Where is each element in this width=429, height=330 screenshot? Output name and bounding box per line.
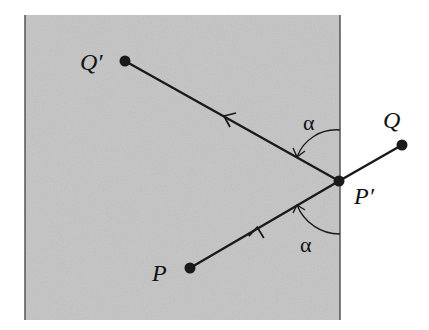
label-q-prime: Q′ <box>80 49 103 75</box>
label-alpha-top: α <box>303 110 315 135</box>
shaded-region <box>25 15 340 320</box>
point-q-prime <box>120 56 131 67</box>
extension-ray <box>339 145 402 181</box>
label-p-prime: P′ <box>353 183 375 209</box>
reflection-diagram: Q′ Q P′ P α α <box>0 0 429 330</box>
point-p-prime <box>334 176 345 187</box>
label-q: Q <box>383 107 400 133</box>
label-p: P <box>151 260 167 286</box>
point-q <box>397 140 408 151</box>
label-alpha-bottom: α <box>300 232 312 257</box>
point-p <box>185 263 196 274</box>
